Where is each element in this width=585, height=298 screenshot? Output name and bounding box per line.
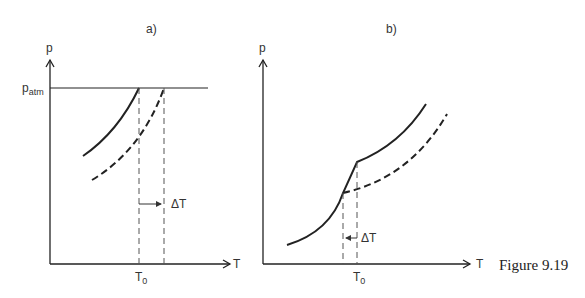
panel-b-y-label: p (259, 41, 266, 55)
panel-b-delta-label: ΔT (361, 231, 377, 245)
panel-a-t0-label: T0 (135, 270, 147, 286)
panel-b-x-label: T (476, 257, 484, 271)
panel-a-y-label: p (46, 41, 53, 55)
panel-a-dashed-curve (92, 88, 164, 180)
panel-b-title: b) (386, 22, 397, 36)
panel-a: a) p T patm ΔT T0 (22, 22, 241, 286)
panel-a-solid-curve (83, 88, 139, 156)
panel-a-title: a) (146, 22, 157, 36)
panel-a-delta-label: ΔT (171, 197, 187, 211)
panel-b-dashed-curve (343, 114, 447, 193)
p-atm-label: patm (22, 81, 44, 97)
figure-caption: Figure 9.19 (499, 257, 568, 273)
panel-b: b) p T ΔT T0 (259, 22, 484, 286)
panel-b-t0-label: T0 (353, 270, 365, 286)
panel-a-x-label: T (233, 257, 241, 271)
figure-9-19: a) p T patm ΔT T0 b) p T (0, 0, 585, 298)
